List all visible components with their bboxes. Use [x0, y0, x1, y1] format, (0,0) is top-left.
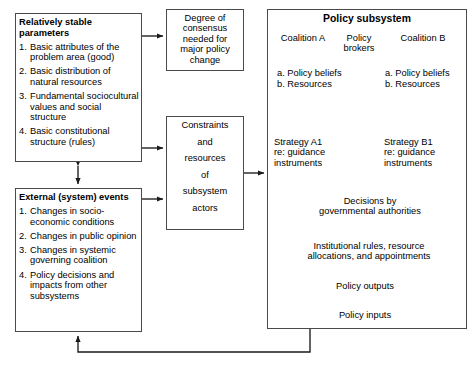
list-number: 4. [19, 126, 27, 137]
list-item: 4.Policy decisions and impacts from othe… [19, 270, 140, 302]
list-number: 4. [19, 270, 27, 281]
coalition-b-beliefs: a. Policy beliefs b. Resources [385, 68, 469, 89]
list-item: 3.Changes in systemic governing coalitio… [19, 245, 140, 266]
coalition-a-beliefs: a. Policy beliefs b. Resources [277, 68, 361, 89]
beliefs-line: a. Policy beliefs [277, 68, 361, 79]
list-number: 3. [19, 245, 27, 256]
institutional-line: allocations, and appointments [283, 251, 455, 261]
list-text: Changes in public opinion [30, 231, 136, 241]
decisions-line: Decisions by [295, 196, 445, 206]
policy-subsystem-title: Policy subsystem [267, 13, 467, 24]
policy-brokers-label: Policy brokers [337, 33, 381, 54]
list-text: Basic attributes of the problem area (go… [30, 42, 119, 63]
strategy-line: instruments [274, 158, 346, 168]
degree-line: needed for [168, 34, 242, 44]
list-item: 2.Basic distribution of natural resource… [19, 66, 140, 87]
beliefs-line: b. Resources [277, 79, 361, 90]
brokers-line: Policy [337, 33, 381, 43]
external-events-content: External (system) events 1.Changes in so… [19, 192, 140, 301]
list-item: 4.Basic constitutional structure (rules) [19, 126, 140, 147]
constraints-text: Constraints and resources of subsystem a… [168, 120, 242, 219]
decisions-by-governmental-authorities: Decisions by governmental authorities [295, 196, 445, 217]
institutional-line: Institutional rules, resource [283, 241, 455, 251]
strategy-line: re: guidance [274, 147, 346, 157]
constraints-line: resources [168, 153, 242, 163]
list-number: 2. [19, 231, 27, 242]
beliefs-line: a. Policy beliefs [385, 68, 469, 79]
list-item: 1.Changes in socio-economic conditions [19, 206, 140, 227]
list-item: 3.Fundamental sociocultural values and s… [19, 91, 140, 123]
list-text: Basic constitutional structure (rules) [30, 126, 110, 147]
degree-line: consensus [168, 23, 242, 33]
list-number: 2. [19, 66, 27, 77]
degree-line: change [168, 55, 242, 65]
coalition-b-label: Coalition B [388, 33, 458, 43]
list-text: Changes in socio-economic conditions [30, 206, 114, 227]
list-text: Changes in systemic governing coalition [30, 245, 116, 266]
constraints-line: of [168, 170, 242, 180]
strategy-line: re: guidance [384, 147, 456, 157]
degree-line: Degree of [168, 13, 242, 23]
degree-line: major policy [168, 44, 242, 54]
list-item: 1.Basic attributes of the problem area (… [19, 42, 140, 63]
beliefs-line: b. Resources [385, 79, 469, 90]
list-text: Fundamental sociocultural values and soc… [30, 91, 139, 122]
external-events-list: 1.Changes in socio-economic conditions 2… [19, 206, 140, 301]
brokers-line: brokers [337, 43, 381, 53]
strategy-a1: Strategy A1 re: guidance instruments [274, 137, 346, 168]
list-number: 1. [19, 206, 27, 217]
stable-parameters-content: Relatively stable parameters 1.Basic att… [19, 17, 140, 148]
policy-inputs-label: Policy inputs [320, 310, 410, 320]
list-text: Policy decisions and impacts from other … [30, 270, 114, 301]
strategy-line: instruments [384, 158, 456, 168]
stable-parameters-list: 1.Basic attributes of the problem area (… [19, 42, 140, 148]
degree-of-consensus-text: Degree of consensus needed for major pol… [168, 13, 242, 65]
feedback-loop-to-external-events [78, 329, 310, 352]
external-events-heading: External (system) events [19, 192, 140, 203]
decisions-line: governmental authorities [295, 206, 445, 216]
constraints-line: actors [168, 203, 242, 213]
list-text: Basic distribution of natural resources [30, 66, 111, 87]
stable-parameters-heading: Relatively stable parameters [19, 17, 140, 38]
policy-outputs-label: Policy outputs [320, 281, 410, 291]
constraints-line: subsystem [168, 186, 242, 196]
list-number: 1. [19, 42, 27, 53]
strategy-line: Strategy B1 [384, 137, 456, 147]
strategy-b1: Strategy B1 re: guidance instruments [384, 137, 456, 168]
institutional-rules-resources: Institutional rules, resource allocation… [283, 241, 455, 262]
strategy-line: Strategy A1 [274, 137, 346, 147]
list-item: 2.Changes in public opinion [19, 231, 140, 242]
constraints-line: and [168, 137, 242, 147]
constraints-line: Constraints [168, 120, 242, 130]
coalition-a-label: Coalition A [271, 33, 335, 43]
list-number: 3. [19, 91, 27, 102]
